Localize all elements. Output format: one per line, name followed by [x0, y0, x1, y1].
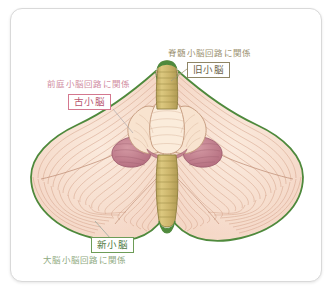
tag-neocerebellum: 新小脳 — [91, 237, 134, 253]
cerebellum-diagram — [11, 9, 322, 282]
tag-archicerebellum: 古小脳 — [68, 94, 111, 110]
screenshot-root: 脊髄小脳回路に関係 旧小脳 前庭小脳回路に関係 古小脳 新小脳 大脳小脳回路に関… — [0, 0, 334, 293]
illustration-card: 脊髄小脳回路に関係 旧小脳 前庭小脳回路に関係 古小脳 新小脳 大脳小脳回路に関… — [10, 8, 322, 282]
brainstem-inferior — [156, 155, 178, 233]
caption-neocerebellum: 大脳小脳回路に関係 — [43, 255, 127, 265]
caption-paleocerebellum: 脊髄小脳回路に関係 — [168, 48, 252, 58]
tag-paleocerebellum: 旧小脳 — [187, 62, 230, 78]
caption-archicerebellum: 前庭小脳回路に関係 — [47, 79, 131, 89]
brainstem-superior — [156, 61, 178, 109]
